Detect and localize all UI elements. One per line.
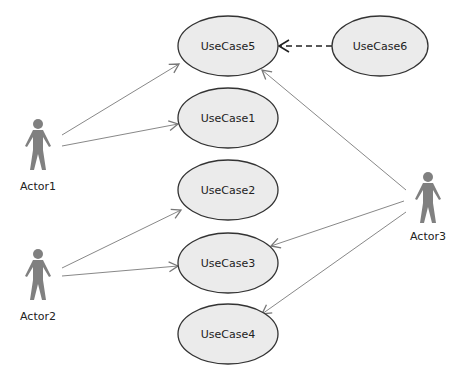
stick-figure-icon	[25, 119, 51, 170]
edge-actor3-usecase5[interactable]	[262, 70, 406, 190]
actor-3-label: Actor3	[410, 230, 446, 243]
edge-actor3-usecase3[interactable]	[271, 201, 404, 246]
actor-2-label: Actor2	[20, 310, 56, 323]
usecase-4-label: UseCase4	[201, 328, 255, 341]
usecase-3-label: UseCase3	[201, 257, 255, 270]
edge-actor1-usecase1[interactable]	[62, 124, 178, 146]
stick-figure-icon	[25, 249, 51, 300]
stick-figure-icon	[415, 172, 441, 223]
usecase-2[interactable]: UseCase2	[178, 160, 278, 220]
usecase-2-label: UseCase2	[201, 184, 255, 197]
actor-1-label: Actor1	[20, 180, 56, 193]
actor-3[interactable]: Actor3	[410, 172, 446, 243]
usecase-6[interactable]: UseCase6	[332, 16, 428, 76]
usecase-5-label: UseCase5	[201, 40, 255, 53]
usecase-4[interactable]: UseCase4	[178, 304, 278, 364]
usecase-1[interactable]: UseCase1	[178, 88, 278, 148]
edge-actor2-usecase2[interactable]	[62, 210, 181, 268]
use-case-diagram: UseCase5 UseCase6 UseCase1 UseCase2 UseC…	[0, 0, 461, 382]
edge-actor1-usecase5[interactable]	[62, 64, 179, 135]
actor-1[interactable]: Actor1	[20, 119, 56, 193]
edge-actor3-usecase4[interactable]	[262, 212, 406, 314]
usecase-5[interactable]: UseCase5	[178, 16, 278, 76]
edge-actor2-usecase3[interactable]	[62, 266, 178, 276]
usecase-3[interactable]: UseCase3	[178, 233, 278, 293]
usecase-6-label: UseCase6	[353, 40, 407, 53]
usecase-1-label: UseCase1	[201, 112, 255, 125]
actor-2[interactable]: Actor2	[20, 249, 56, 323]
